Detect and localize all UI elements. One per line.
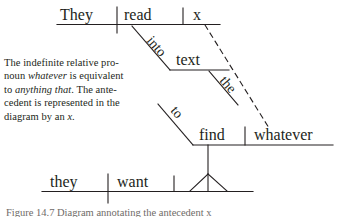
figure-caption: Figure 14.7 Diagram annotating the antec…	[6, 207, 336, 217]
note-text: is equivalent	[67, 70, 124, 81]
note-text: to	[4, 84, 15, 95]
label-object-whatever: whatever	[254, 126, 313, 143]
note-text: cedent is represented in the	[4, 97, 120, 108]
note-line: to anything that. The ante-	[4, 83, 142, 96]
triangle-right-leg	[208, 174, 227, 191]
note-text: .	[72, 111, 75, 122]
explanatory-note: The indefinite relative pro- noun whatev…	[4, 56, 142, 123]
note-text: . The ante-	[71, 84, 117, 95]
label-prep-into: into	[144, 33, 170, 59]
label-verb-lower: want	[117, 173, 149, 190]
note-emphasis: whatever	[28, 70, 67, 81]
label-verb-find: find	[199, 126, 225, 143]
label-object-main: x	[193, 6, 201, 23]
note-text: diagram by an	[4, 111, 67, 122]
label-verb-main: read	[124, 6, 152, 23]
note-text: noun	[4, 70, 28, 81]
triangle-left-leg	[190, 174, 208, 191]
note-text: The indefinite relative pro-	[4, 57, 119, 68]
note-line: noun whatever is equivalent	[4, 69, 142, 82]
label-prep-object-text: text	[176, 51, 201, 68]
note-emphasis: anything that	[15, 84, 71, 95]
note-line: The indefinite relative pro-	[4, 56, 142, 69]
label-subject-lower: they	[50, 173, 78, 191]
dashed-antecedent-connector	[205, 25, 269, 128]
label-article-the: the	[217, 73, 240, 96]
note-line: diagram by an x.	[4, 110, 142, 123]
figure-container: whatever --> They read x text find whate…	[0, 0, 339, 217]
note-line: cedent is represented in the	[4, 96, 142, 109]
label-subject-main: They	[60, 6, 93, 24]
